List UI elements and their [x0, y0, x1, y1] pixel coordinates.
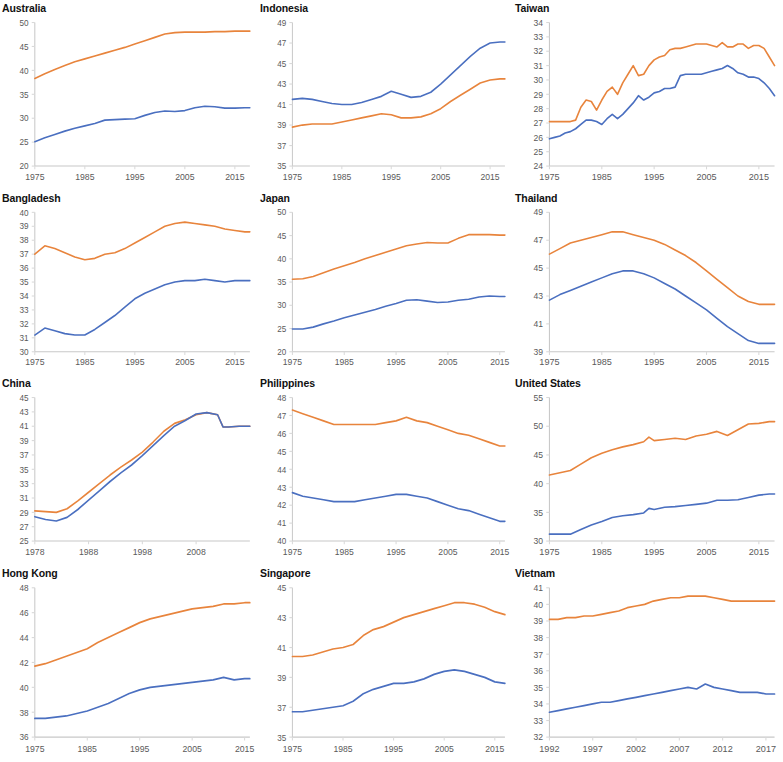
line-chart-svg: 30354045505519751985199520052015 [513, 391, 781, 565]
x-tick-label: 1985 [78, 743, 97, 753]
x-tick-label: 1985 [592, 172, 612, 182]
y-tick-label: 45 [533, 450, 543, 460]
x-tick-label: 2005 [182, 743, 201, 753]
x-tick-label: 1995 [382, 172, 401, 182]
y-tick-label: 50 [20, 18, 29, 28]
x-tick-label: 1985 [592, 547, 612, 557]
y-tick-label: 39 [20, 436, 29, 446]
y-tick-label: 35 [277, 732, 286, 743]
y-tick-label: 48 [20, 583, 29, 593]
y-tick-label: 30 [533, 536, 543, 546]
y-tick-label: 29 [20, 507, 29, 517]
y-tick-label: 48 [277, 393, 286, 403]
chart-panel: Singapore3537394143451975198519952005201… [258, 565, 513, 762]
x-tick-label: 1985 [332, 172, 351, 182]
panel-title: Philippines [260, 377, 315, 389]
x-tick-label: 2015 [749, 358, 769, 368]
x-tick-label: 1978 [25, 547, 44, 557]
y-tick-label: 25 [20, 137, 29, 147]
y-tick-label: 28 [533, 104, 543, 114]
y-tick-label: 43 [277, 482, 286, 492]
plot-area: 39414345474919751985199520052015 [513, 206, 781, 375]
y-tick-label: 37 [20, 450, 29, 460]
x-tick-label: 1985 [335, 547, 354, 557]
panel-title: Indonesia [260, 2, 308, 14]
series-line-blue [35, 279, 250, 335]
line-chart-svg: 39414345474919751985199520052015 [513, 206, 781, 375]
x-tick-label: 2005 [696, 172, 716, 182]
x-tick-label: 2005 [175, 357, 194, 367]
x-tick-label: 2015 [225, 172, 244, 182]
x-tick-label: 1975 [283, 743, 302, 754]
x-tick-label: 2012 [712, 744, 732, 754]
y-tick-label: 44 [20, 633, 29, 643]
y-tick-label: 35 [20, 277, 29, 287]
x-tick-label: 1995 [387, 547, 406, 557]
y-tick-label: 35 [20, 89, 29, 99]
y-tick-label: 35 [277, 161, 286, 171]
y-tick-label: 39 [277, 672, 286, 683]
chart-panel: Bangladesh303132333435363738394019751985… [0, 190, 258, 375]
y-tick-label: 30 [277, 301, 286, 310]
y-tick-label: 55 [533, 393, 543, 403]
y-tick-label: 47 [277, 410, 286, 420]
plot-area: 25272931333537394143451978198819982008 [0, 391, 256, 565]
chart-panel: Taiwan2425262728293031323334197519851995… [513, 0, 783, 190]
series-line-blue [292, 296, 505, 329]
plot-area: 30354045505519751985199520052015 [513, 391, 781, 565]
y-tick-label: 30 [533, 75, 543, 85]
y-tick-label: 41 [277, 642, 286, 653]
y-tick-label: 49 [277, 18, 286, 28]
x-tick-label: 1995 [125, 357, 144, 367]
x-tick-label: 1975 [283, 547, 302, 557]
y-tick-label: 25 [533, 147, 543, 157]
chart-panel: China25272931333537394143451978198819982… [0, 375, 258, 565]
chart-panel: Indonesia3537394143454749197519851995200… [258, 0, 513, 190]
y-tick-label: 41 [277, 518, 286, 528]
line-chart-svg: 3638404244464819751985199520052015 [0, 581, 256, 762]
x-tick-label: 2015 [749, 172, 769, 182]
series-line-blue [35, 106, 250, 141]
x-tick-label: 1995 [125, 172, 144, 182]
plot-area: 2025303540455019751985199520052015 [258, 206, 511, 375]
plot-area: 2025303540455019751985199520052015 [0, 16, 256, 190]
y-tick-label: 38 [20, 707, 29, 717]
line-chart-svg: 353739414345474919751985199520052015 [258, 16, 511, 190]
y-tick-label: 35 [277, 278, 286, 287]
chart-panel: Japan2025303540455019751985199520052015 [258, 190, 513, 375]
y-tick-label: 35 [533, 508, 543, 518]
plot-area: 2425262728293031323334197519851995200520… [513, 16, 781, 190]
y-tick-label: 50 [277, 208, 286, 217]
y-tick-label: 40 [533, 479, 543, 489]
y-tick-label: 40 [20, 65, 29, 75]
x-tick-label: 1995 [644, 358, 664, 368]
x-tick-label: 1985 [75, 172, 94, 182]
series-line-blue [35, 677, 250, 718]
series-line-blue [292, 493, 505, 522]
x-tick-label: 1985 [333, 743, 352, 754]
y-tick-label: 32 [20, 319, 29, 329]
x-tick-label: 2005 [435, 743, 454, 754]
panel-title: Thailand [515, 192, 557, 204]
x-tick-label: 2015 [490, 547, 509, 557]
panel-title: Australia [2, 2, 46, 14]
y-tick-label: 46 [277, 428, 286, 438]
series-line-orange [35, 413, 250, 513]
y-tick-label: 45 [20, 41, 29, 51]
line-chart-svg: 35373941434519751985199520052015 [258, 581, 511, 762]
chart-panel: United States303540455055197519851995200… [513, 375, 783, 565]
series-line-blue [549, 271, 774, 344]
line-chart-svg: 25272931333537394143451978198819982008 [0, 391, 256, 565]
y-tick-label: 44 [277, 464, 286, 474]
plot-area: 40414243444546474819751985199520052015 [258, 391, 511, 565]
y-tick-label: 41 [20, 421, 29, 431]
y-tick-label: 37 [277, 702, 286, 713]
plot-area: 3031323334353637383940197519851995200520… [0, 206, 256, 375]
series-line-blue [292, 670, 505, 712]
series-line-orange [292, 603, 505, 657]
x-tick-label: 2005 [175, 172, 194, 182]
x-tick-label: 1975 [25, 743, 44, 753]
x-tick-label: 1985 [335, 357, 354, 367]
y-tick-label: 31 [533, 61, 543, 71]
y-tick-label: 37 [533, 649, 543, 659]
